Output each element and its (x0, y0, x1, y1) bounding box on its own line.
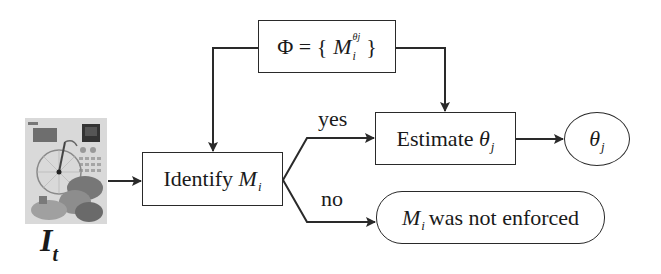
not-enforced-sub: i (421, 218, 425, 234)
phi-sup: θj (353, 32, 361, 42)
theta-sub: j (601, 139, 605, 155)
arrow-phi-to-estimate (396, 48, 445, 111)
identify-box: Identify Mi (142, 152, 283, 206)
arrow-phi-to-identify (213, 48, 258, 151)
phi-prefix: Φ = { (277, 34, 327, 60)
phi-sub: i (353, 50, 361, 62)
no-label: no (321, 186, 343, 212)
not-enforced-node: Mi was not enforced (376, 191, 605, 244)
phi-set-box: Φ = { M θj i } (258, 20, 396, 73)
estimate-symbol: θ (479, 126, 490, 152)
identify-text: Identify (163, 166, 233, 192)
not-enforced-symbol: M (402, 205, 420, 231)
phi-symbol: M (333, 34, 351, 60)
estimate-sub: j (491, 139, 495, 155)
not-enforced-text: was not enforced (429, 205, 579, 231)
identify-sub: i (258, 179, 262, 195)
identify-symbol: M (239, 166, 257, 192)
input-image (25, 118, 107, 224)
arrow-yes-branch (283, 138, 374, 180)
estimate-box: Estimate θj (375, 112, 516, 165)
theta-symbol: θ (589, 126, 600, 152)
input-image-label: It (40, 222, 58, 259)
estimate-text: Estimate (397, 126, 474, 152)
phi-suffix: } (366, 34, 377, 60)
input-label-main: I (40, 222, 52, 258)
yes-label: yes (318, 106, 347, 132)
theta-output-node: θj (564, 112, 630, 166)
input-label-sub: t (52, 243, 58, 265)
